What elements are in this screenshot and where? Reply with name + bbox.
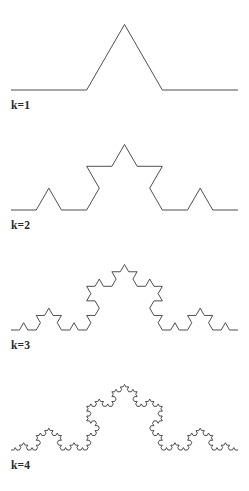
koch-curve-k4 [0, 360, 249, 482]
koch-curve-k1 [0, 0, 249, 122]
koch-curve-k2 [0, 120, 249, 242]
panel-label-k2: k=2 [11, 220, 30, 232]
koch-figure: k=1 k=2 k=3 k=4 [0, 0, 249, 491]
panel-label-k1: k=1 [11, 100, 30, 112]
koch-polyline-k3 [11, 264, 238, 330]
koch-panel-k3: k=3 [0, 240, 249, 362]
koch-polyline-k1 [11, 24, 238, 90]
koch-panel-k2: k=2 [0, 120, 249, 242]
panel-label-k3: k=3 [11, 340, 30, 352]
koch-polyline-k4 [11, 384, 238, 450]
koch-panel-k4: k=4 [0, 360, 249, 482]
koch-curve-k3 [0, 240, 249, 362]
koch-panel-k1: k=1 [0, 0, 249, 122]
panel-label-k4: k=4 [11, 460, 30, 472]
koch-polyline-k2 [11, 144, 238, 210]
